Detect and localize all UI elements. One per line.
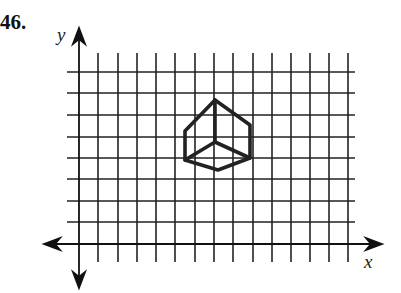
y-axis-label: y	[55, 24, 66, 45]
coordinate-grid-diagram: y x	[0, 0, 401, 293]
x-axis-label: x	[363, 251, 373, 272]
grid-lines	[67, 53, 355, 262]
